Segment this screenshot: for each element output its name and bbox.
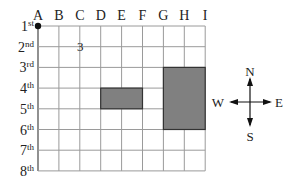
compass-north: N bbox=[245, 64, 255, 79]
arrow-south-icon bbox=[247, 118, 253, 127]
column-label: D bbox=[96, 8, 106, 23]
arrow-east-icon bbox=[263, 99, 272, 105]
column-label: B bbox=[54, 8, 63, 23]
column-labels: ABCDEFGHI bbox=[33, 8, 208, 23]
compass-south: S bbox=[246, 129, 253, 144]
row-label: 8th bbox=[20, 163, 35, 179]
column-label: A bbox=[33, 8, 44, 23]
row-label: 4th bbox=[20, 80, 35, 96]
row-label: 1st bbox=[21, 18, 35, 34]
column-label: H bbox=[179, 8, 189, 23]
row-label: 3rd bbox=[20, 59, 35, 75]
shaded-rect-large bbox=[163, 67, 205, 129]
row-label: 6th bbox=[20, 122, 35, 138]
compass-west: W bbox=[212, 95, 225, 110]
column-label: E bbox=[117, 8, 126, 23]
grid-diagram: ABCDEFGHI 1st2nd3rd4th5th6th7th8th 3 N S… bbox=[0, 0, 295, 185]
column-label: G bbox=[158, 8, 168, 23]
row-labels: 1st2nd3rd4th5th6th7th8th bbox=[18, 18, 35, 179]
row-label: 7th bbox=[20, 142, 35, 158]
row-label: 5th bbox=[20, 101, 35, 117]
column-label: C bbox=[75, 8, 84, 23]
column-label: F bbox=[139, 8, 147, 23]
column-label: I bbox=[203, 8, 208, 23]
compass-rose: N S W E bbox=[212, 64, 283, 144]
marker-label: 3 bbox=[77, 39, 84, 54]
origin-dot bbox=[35, 23, 41, 29]
shaded-rect-small bbox=[101, 88, 143, 109]
arrow-west-icon bbox=[229, 99, 238, 105]
compass-east: E bbox=[275, 95, 283, 110]
row-label: 2nd bbox=[18, 39, 35, 55]
shaded-regions bbox=[101, 67, 206, 129]
